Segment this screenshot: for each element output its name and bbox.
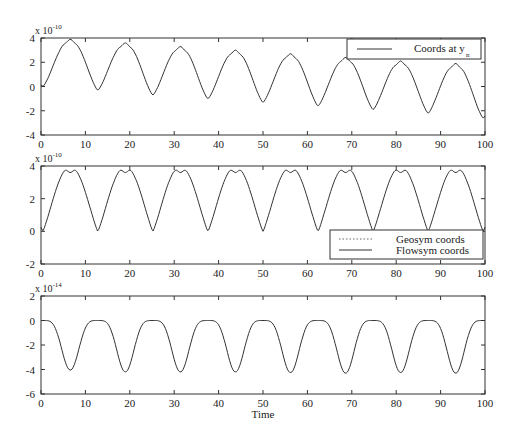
x-tick-label: 40 (213, 267, 225, 279)
series-difference (41, 321, 485, 374)
series-flowsym-coords (41, 170, 485, 231)
x-tick-label: 10 (80, 267, 92, 279)
x-tick-label: 70 (346, 267, 358, 279)
y-tick-label: 2 (30, 193, 36, 205)
x-tick-label: 60 (302, 397, 314, 409)
x-tick-label: 40 (213, 138, 225, 150)
panel-middle: 0102030405060708090100-2024 x 10-10 Geos… (26, 151, 494, 279)
x-tick-label: 30 (169, 397, 181, 409)
y-tick-label: -2 (26, 339, 35, 351)
y-tick-label: 0 (30, 81, 36, 93)
x-tick-label: 90 (435, 138, 447, 150)
y-tick-label: -6 (26, 388, 36, 400)
x-tick-label: 30 (169, 138, 181, 150)
x-tick-label: 50 (258, 138, 270, 150)
x-tick-label: 70 (346, 138, 358, 150)
legend-label-flowsym: Flowsym coords (396, 244, 469, 256)
x-tick-label: 30 (169, 267, 181, 279)
y-multiplier-top: x 10-10 (35, 23, 62, 36)
x-tick-label: 40 (213, 397, 225, 409)
x-tick-label: 0 (38, 397, 44, 409)
ticks-bottom: 0102030405060708090100-6-4-202 (26, 290, 494, 409)
x-tick-label: 20 (124, 267, 136, 279)
y-tick-label: -2 (26, 105, 35, 117)
x-tick-label: 100 (477, 397, 494, 409)
x-tick-label: 80 (391, 397, 403, 409)
x-tick-label: 60 (302, 138, 314, 150)
legend-label-coords: Coords at y (414, 42, 465, 54)
x-tick-label: 100 (477, 138, 494, 150)
x-tick-label: 80 (391, 267, 403, 279)
x-tick-label: 20 (124, 397, 136, 409)
x-tick-label: 50 (258, 267, 270, 279)
y-multiplier-middle: x 10-10 (35, 151, 62, 164)
x-tick-label: 60 (302, 267, 314, 279)
y-tick-label: -4 (26, 364, 36, 376)
panel-top: 0102030405060708090100-4-2024 x 10-10 Co… (26, 23, 494, 150)
x-tick-label: 70 (346, 397, 358, 409)
x-tick-label: 10 (80, 138, 92, 150)
y-multiplier-bottom: x 10-14 (35, 281, 62, 294)
y-tick-label: -2 (26, 258, 35, 270)
legend-top: Coords at y n (347, 39, 481, 59)
x-tick-label: 90 (435, 267, 447, 279)
y-tick-label: 0 (30, 225, 36, 237)
panel-bottom: 0102030405060708090100-6-4-202 x 10-14 T… (26, 281, 494, 420)
x-tick-label: 10 (80, 397, 92, 409)
y-tick-label: -4 (26, 129, 36, 141)
figure: 0102030405060708090100-4-2024 x 10-10 Co… (0, 0, 515, 437)
x-axis-label: Time (252, 408, 275, 420)
legend-middle: Geosym coords Flowsym coords (330, 230, 483, 259)
x-tick-label: 20 (124, 138, 136, 150)
axes-box-bottom (41, 296, 485, 394)
x-tick-label: 0 (38, 267, 44, 279)
x-tick-label: 90 (435, 397, 447, 409)
x-tick-label: 80 (391, 138, 403, 150)
x-tick-label: 0 (38, 138, 44, 150)
legend-label-subscript: n (466, 51, 470, 59)
y-tick-label: 0 (30, 315, 36, 327)
y-tick-label: 2 (30, 56, 36, 68)
x-tick-label: 100 (477, 267, 494, 279)
